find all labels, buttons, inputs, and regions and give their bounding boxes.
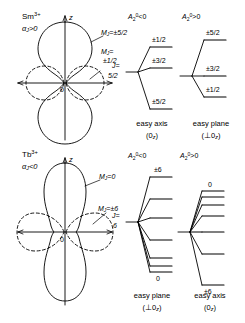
tb-right-fan-6 [190, 232, 202, 254]
tb-leader-dashed [93, 213, 106, 224]
sm-ion-label: Sm3+ [22, 12, 41, 21]
sm-origin-label: 0 [60, 86, 64, 93]
sm-j-label: J= [112, 62, 120, 69]
tb-right-header: A20>0 [180, 152, 198, 161]
sm-right-level-label-1: ±5/2 [206, 29, 220, 36]
tb-origin-label: 0 [60, 236, 64, 243]
tb-ion-label: Tb3+ [22, 150, 38, 159]
tb-j-value: 6 [113, 222, 117, 229]
sm-right-fan-1 [192, 40, 204, 76]
sm-z-axis-label: z [69, 14, 73, 22]
tb-right-caption-2: (0z) [180, 304, 240, 313]
tb-mj-solid-label: MJ=0 [99, 173, 115, 181]
sm-alpha-label: αJ>0 [22, 25, 38, 34]
sm-leader-dashed [90, 71, 100, 79]
tb-right-top-level-label: 0 [208, 181, 212, 188]
sm-j-value: 5/2 [108, 72, 118, 79]
sm-right-header: A20>0 [182, 13, 200, 22]
sm-mj-solid-label: MJ=±5/2 [101, 29, 127, 37]
sm-left-fan-3 [138, 72, 150, 109]
sm-left-level-label-2: ±3/2 [152, 57, 166, 64]
sm-right-caption-2: (⊥0z) [180, 132, 242, 141]
figure-crystal-field-splitting: Sm3+ αJ>0 z 0 MJ=±5/2 MJ= ±1/2 J= 5/2 A2… [0, 0, 245, 323]
tb-left-bottom-level-label: 0 [156, 275, 160, 282]
tb-left-caption-2: (⊥0z) [121, 304, 183, 313]
tb-z-axis-label: z [69, 156, 73, 164]
tb-left-fan-1 [138, 177, 150, 222]
tb-left-caption-1: easy plane [121, 292, 183, 300]
tb-right-fan-2 [190, 197, 202, 232]
sm-right-level-label-3: ±1/2 [206, 86, 220, 93]
tb-right-caption-1: easy axis [180, 292, 240, 300]
tb-j-label: J= [112, 212, 120, 219]
sm-right-fan-3 [192, 76, 204, 97]
tb-left-header: A20<0 [128, 152, 146, 161]
sm-mj-dashed-label: MJ= [101, 48, 113, 56]
sm-left-header: A20<0 [128, 13, 146, 22]
sm-right-level-label-2: ±3/2 [206, 65, 220, 72]
tb-right-fan-7 [190, 232, 202, 285]
sm-left-caption-1: easy axis [122, 120, 182, 128]
tb-left-top-level-label: ±6 [154, 166, 162, 173]
sm-left-level-label-1: ±1/2 [152, 36, 166, 43]
sm-left-level-label-3: ±5/2 [152, 98, 166, 105]
sm-left-caption-2: (0z) [122, 132, 182, 141]
tb-left-fan-7 [138, 222, 150, 272]
tb-alpha-label: αJ<0 [22, 163, 38, 172]
sm-right-caption-1: easy plane [180, 120, 242, 128]
tb-leader-solid [85, 180, 100, 186]
